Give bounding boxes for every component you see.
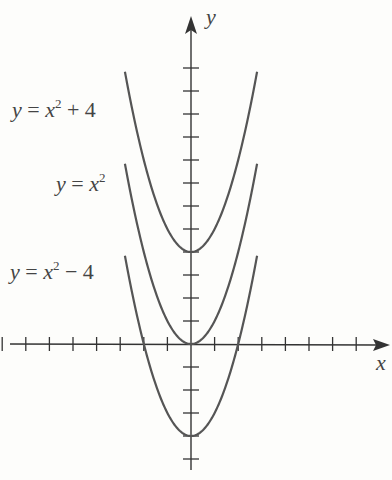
label-x-axis: x: [376, 350, 386, 376]
curve-label-plus4: y = x2 + 4: [12, 96, 96, 123]
label-y-axis: y: [206, 4, 216, 30]
curve-label-base: y = x2: [56, 170, 105, 197]
parabola-plot: [0, 0, 392, 480]
curve-label-minus4: y = x2 − 4: [10, 258, 94, 285]
axes: [2, 16, 390, 470]
